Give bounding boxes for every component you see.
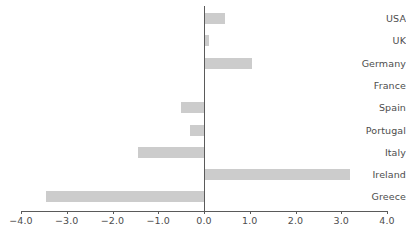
category-label: Greece [206, 191, 406, 202]
x-tick-label: 0.0 [196, 215, 211, 226]
plot-area: USAUKGermanyFranceSpainPortugalItalyIrel… [0, 0, 406, 211]
bar [46, 191, 204, 202]
category-label: Germany [206, 58, 406, 69]
x-tick [113, 211, 114, 214]
x-tick [341, 211, 342, 214]
category-label: Ireland [206, 169, 406, 180]
bar [138, 147, 204, 158]
category-label: Spain [206, 102, 406, 113]
category-label: Italy [206, 147, 406, 158]
x-tick [67, 211, 68, 214]
zero-baseline-axis [204, 6, 205, 211]
x-tick-label: 4.0 [379, 215, 394, 226]
category-label: France [206, 80, 406, 91]
x-tick-label: 1.0 [242, 215, 257, 226]
x-tick [250, 211, 251, 214]
category-label: USA [206, 13, 406, 24]
category-label: Portugal [206, 125, 406, 136]
x-tick [21, 211, 22, 214]
x-tick [387, 211, 388, 214]
x-tick-label: −2.0 [101, 215, 124, 226]
bar [190, 125, 204, 136]
x-tick [158, 211, 159, 214]
x-tick-label: −4.0 [9, 215, 32, 226]
x-tick [296, 211, 297, 214]
x-tick-label: 3.0 [334, 215, 349, 226]
x-tick-label: −3.0 [55, 215, 78, 226]
category-label: UK [206, 35, 406, 46]
x-tick-label: 2.0 [288, 215, 303, 226]
x-tick [204, 211, 205, 214]
bar [181, 102, 204, 113]
x-tick-label: −1.0 [147, 215, 170, 226]
bar-chart: USAUKGermanyFranceSpainPortugalItalyIrel… [0, 0, 406, 241]
